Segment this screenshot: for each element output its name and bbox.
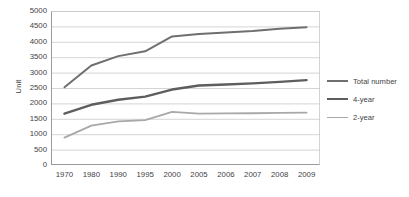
legend-swatch-icon bbox=[327, 117, 348, 118]
y-tick-label: 4000 bbox=[13, 38, 47, 46]
x-tick-label: 2007 bbox=[239, 170, 266, 184]
line-chart: Unit 50004500400035003000250020001500100… bbox=[0, 0, 409, 197]
x-tick-label: 1970 bbox=[51, 170, 78, 184]
legend-item-0[interactable]: Total number bbox=[327, 72, 409, 90]
series-lines bbox=[64, 27, 306, 137]
plot-svg bbox=[51, 11, 320, 165]
legend-label: Total number bbox=[353, 77, 397, 86]
y-tick-label: 2500 bbox=[13, 84, 47, 92]
y-tick-label: 500 bbox=[13, 146, 47, 154]
series-line-1 bbox=[64, 80, 306, 114]
series-line-2 bbox=[64, 112, 306, 138]
y-tick-label: 3000 bbox=[13, 69, 47, 77]
x-tick-label: 2009 bbox=[293, 170, 320, 184]
y-tick-label: 1500 bbox=[13, 115, 47, 123]
legend-swatch-icon bbox=[327, 80, 348, 82]
y-tick-label: 2000 bbox=[13, 99, 47, 107]
chart-legend: Total number4-year2-year bbox=[327, 72, 409, 126]
x-tick-label: 2005 bbox=[186, 170, 213, 184]
series-line-0 bbox=[64, 27, 306, 87]
y-tick-label: 4500 bbox=[13, 22, 47, 30]
x-tick-label: 2008 bbox=[266, 170, 293, 184]
legend-label: 4-year bbox=[353, 95, 375, 104]
legend-label: 2-year bbox=[353, 113, 375, 122]
x-tick-label: 2006 bbox=[212, 170, 239, 184]
legend-item-2[interactable]: 2-year bbox=[327, 108, 409, 126]
plot-area bbox=[51, 11, 320, 165]
x-tick-label: 1990 bbox=[105, 170, 132, 184]
y-tick-label: 0 bbox=[13, 161, 47, 169]
y-tick-label: 3500 bbox=[13, 53, 47, 61]
legend-item-1[interactable]: 4-year bbox=[327, 90, 409, 108]
legend-swatch-icon bbox=[327, 98, 348, 100]
x-tick-label: 1980 bbox=[78, 170, 105, 184]
x-tick-label: 2000 bbox=[159, 170, 186, 184]
x-axis-tick-labels: 1970198019901995200020052006200720082009 bbox=[51, 170, 320, 184]
y-tick-label: 5000 bbox=[13, 7, 47, 15]
y-tick-label: 1000 bbox=[13, 130, 47, 138]
x-tick-label: 1995 bbox=[132, 170, 159, 184]
